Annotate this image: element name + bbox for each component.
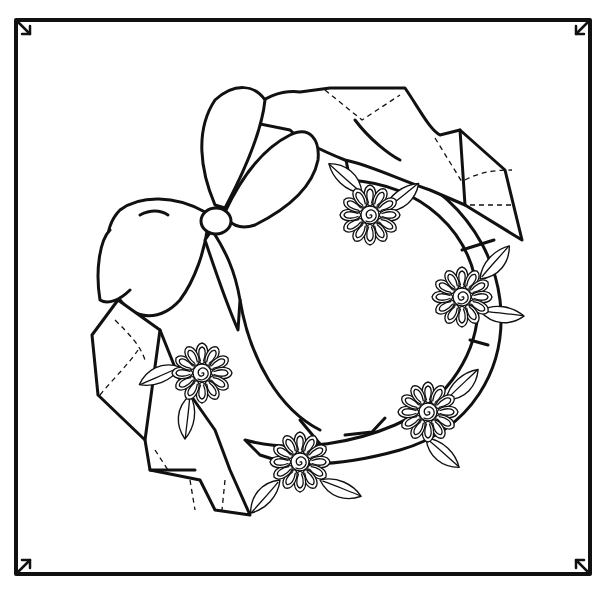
corner-arrow-bottom-right-icon [576, 560, 588, 572]
wreath-illustration [0, 0, 608, 589]
corner-arrow-top-left-icon [18, 22, 30, 34]
ribbon-left-tail [92, 300, 250, 515]
flower-lower-right [398, 368, 485, 476]
corner-arrow-top-right-icon [576, 22, 588, 34]
corner-arrow-bottom-left-icon [18, 560, 30, 572]
